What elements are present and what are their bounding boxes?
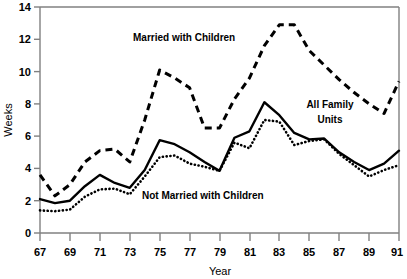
- x-tick-label-67: 67: [34, 246, 46, 258]
- y-tick-label-12: 12: [19, 33, 31, 45]
- annotation-all-family-units-line2: Units: [318, 114, 343, 125]
- x-tick-label-75: 75: [154, 246, 166, 258]
- annotation-all-family-units-line1: All Family: [306, 99, 354, 110]
- y-tick-label-6: 6: [25, 130, 31, 142]
- y-tick-label-2: 2: [25, 195, 31, 207]
- x-tick-label-85: 85: [303, 246, 315, 258]
- y-tick-label-4: 4: [25, 162, 32, 174]
- x-axis-title: Year: [209, 265, 232, 277]
- y-tick-label-14: 14: [19, 1, 32, 13]
- x-tick-label-89: 89: [363, 246, 375, 258]
- x-tick-marks: [40, 233, 399, 241]
- y-axis-title: Weeks: [2, 103, 14, 137]
- annotation-married-with-children: Married with Children: [133, 32, 235, 43]
- x-tick-label-77: 77: [184, 246, 196, 258]
- y-tick-label-0: 0: [25, 227, 31, 239]
- x-tick-label-87: 87: [333, 246, 345, 258]
- chart-container: 0 2 4 6 8 10 12 14 67 69 71 73 75 7: [0, 0, 407, 279]
- x-tick-label-79: 79: [214, 246, 226, 258]
- x-tick-label-69: 69: [64, 246, 76, 258]
- x-tick-label-71: 71: [94, 246, 106, 258]
- x-tick-label-81: 81: [244, 246, 256, 258]
- y-tick-label-8: 8: [25, 98, 31, 110]
- line-chart: 0 2 4 6 8 10 12 14 67 69 71 73 75 7: [0, 0, 407, 279]
- y-tick-label-10: 10: [19, 66, 31, 78]
- annotation-not-married-with-children: Not Married with Children: [142, 190, 264, 201]
- x-tick-label-83: 83: [273, 246, 285, 258]
- x-tick-label-73: 73: [124, 246, 136, 258]
- x-tick-label-91: 91: [391, 246, 403, 258]
- series-all-family-units: [40, 102, 399, 203]
